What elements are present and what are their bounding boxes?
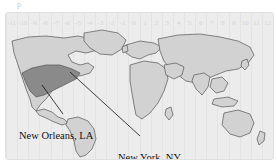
annotation-label-new-orleans: New Orleans, LA: [19, 130, 93, 142]
landmass-japan: [241, 59, 249, 70]
landmass-indonesia: [212, 97, 238, 107]
landmass-europe: [126, 41, 162, 59]
landmass-africa: [130, 61, 168, 119]
landmass-madagascar: [165, 107, 173, 120]
annotation-label-new-york: New York, NY: [118, 152, 181, 160]
landmass-new-zealand: [257, 131, 265, 145]
world-map-figure: -11-10-9-8-7-6-5-4-3-2-10123456789101112…: [5, 12, 274, 160]
landmass-india: [192, 73, 210, 95]
landmass-southeast-asia: [210, 77, 228, 93]
landmass-central-america: [36, 109, 68, 125]
landmass-australia: [222, 110, 254, 137]
page-artifact-glyph: p: [17, 0, 27, 9]
